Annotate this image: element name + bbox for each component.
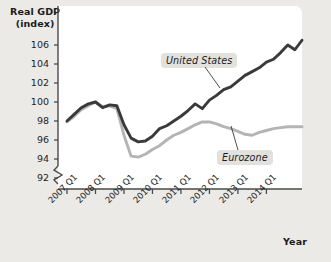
y-tick-label: 98 (23, 115, 49, 126)
y-tick-label: 106 (23, 39, 49, 50)
y-tick-label: 94 (23, 153, 49, 164)
y-tick-label: 96 (23, 134, 49, 145)
series-lines (67, 40, 302, 157)
y-tick-label: 92 (23, 172, 49, 183)
chart-svg (0, 0, 331, 262)
line-eurozone (67, 102, 302, 157)
line-united-states (67, 40, 302, 142)
annotation-leader-lines (205, 67, 238, 150)
leader-line-united-states (205, 67, 220, 88)
chart-figure: Real GDP (index) Year United States Euro… (0, 0, 331, 262)
axes (54, 6, 302, 189)
y-tick-label: 102 (23, 77, 49, 88)
y-tick-label: 104 (23, 58, 49, 69)
y-tick-label: 100 (23, 96, 49, 107)
